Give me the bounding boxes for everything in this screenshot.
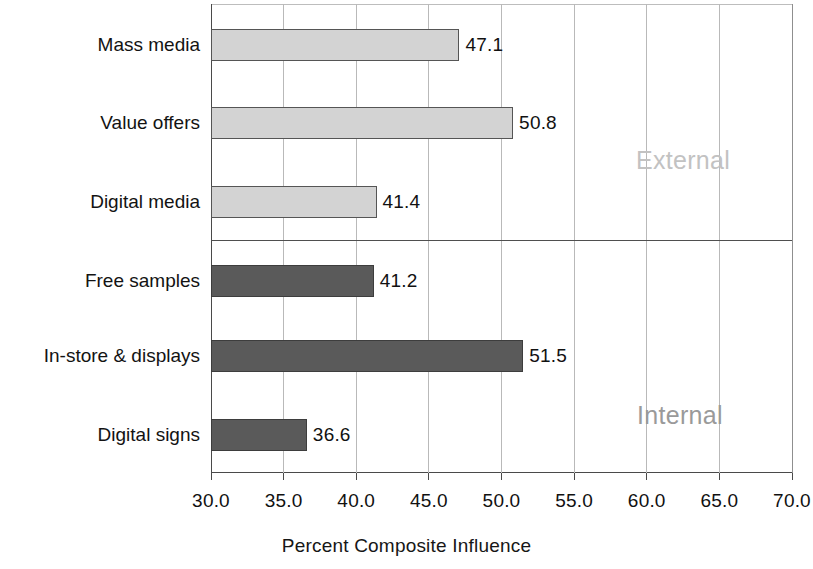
bar-row: 51.5	[211, 340, 792, 372]
gridline-50.0	[501, 4, 502, 473]
category-label-digital-media: Digital media	[0, 191, 200, 213]
tick-label-50.0: 50.0	[483, 490, 521, 512]
bar-chart: 47.150.841.441.251.536.6 Mass mediaValue…	[0, 0, 813, 569]
tick-mark-40.0	[356, 473, 357, 480]
bar-value-label: 51.5	[529, 345, 567, 367]
plot-top-rule	[212, 4, 792, 5]
group-divider-line	[211, 240, 792, 241]
category-label-mass-media: Mass media	[0, 34, 200, 56]
tick-mark-35.0	[283, 473, 284, 480]
bar-value-label: 50.8	[519, 112, 557, 134]
tick-mark-55.0	[574, 473, 575, 480]
tick-label-70.0: 70.0	[773, 490, 811, 512]
bar-row: 47.1	[211, 29, 792, 61]
x-axis-title: Percent Composite Influence	[0, 535, 813, 557]
bar-in-store-displays	[211, 340, 523, 372]
bar-row: 41.4	[211, 186, 792, 218]
annotation-external: External	[636, 146, 730, 175]
bar-value-label: 36.6	[313, 424, 351, 446]
category-label-value-offers: Value offers	[0, 112, 200, 134]
bar-digital-media	[211, 186, 377, 218]
tick-mark-50.0	[501, 473, 502, 480]
bar-value-label: 41.2	[380, 270, 418, 292]
gridline-55.0	[574, 4, 575, 473]
tick-mark-60.0	[646, 473, 647, 480]
bar-free-samples	[211, 265, 374, 297]
annotation-internal: Internal	[637, 401, 723, 430]
gridline-45.0	[428, 4, 429, 473]
bar-mass-media	[211, 29, 459, 61]
gridline-35.0	[283, 4, 284, 473]
bar-value-offers	[211, 107, 513, 139]
tick-mark-70.0	[792, 473, 793, 480]
bar-value-label: 41.4	[383, 191, 421, 213]
category-label-free-samples: Free samples	[0, 270, 200, 292]
tick-label-30.0: 30.0	[192, 490, 230, 512]
tick-mark-45.0	[428, 473, 429, 480]
tick-label-45.0: 45.0	[410, 490, 448, 512]
tick-label-55.0: 55.0	[555, 490, 593, 512]
tick-label-40.0: 40.0	[337, 490, 375, 512]
tick-mark-30.0	[211, 473, 212, 480]
gridline-40.0	[356, 4, 357, 473]
tick-label-60.0: 60.0	[628, 490, 666, 512]
category-label-in-store-displays: In-store & displays	[0, 345, 200, 367]
tick-label-35.0: 35.0	[265, 490, 303, 512]
bar-row: 41.2	[211, 265, 792, 297]
bar-row: 50.8	[211, 107, 792, 139]
tick-label-65.0: 65.0	[700, 490, 738, 512]
bar-value-label: 47.1	[465, 34, 503, 56]
gridline-70.0	[792, 4, 793, 473]
category-label-digital-signs: Digital signs	[0, 424, 200, 446]
bar-digital-signs	[211, 419, 307, 451]
tick-mark-65.0	[719, 473, 720, 480]
